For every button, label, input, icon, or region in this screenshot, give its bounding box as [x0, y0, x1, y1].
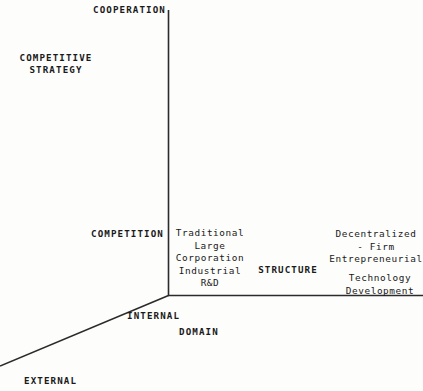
axis-title-domain: DOMAIN [179, 326, 229, 338]
item-decentralized-firm-entrepreneurial: Decentralized - Firm Entrepreneurial [329, 228, 423, 266]
axis-endpoint-label-internal: INTERNAL [127, 310, 187, 322]
axis-endpoint-label-cooperation: COOPERATION [70, 4, 166, 16]
item-technology-development: Technology Development [341, 272, 419, 297]
item-traditional-large-corporation-industrial-rd: Traditional Large Corporation Industrial… [170, 227, 250, 290]
axis-title-structure: STRUCTURE [258, 264, 318, 276]
axis-title-line-2: STRATEGY [29, 64, 82, 75]
diagram-canvas: COOPERATION COMPETITIVESTRATEGY COMPETIT… [0, 0, 423, 391]
diagonal-axis-line [0, 296, 169, 367]
axis-endpoint-label-external: EXTERNAL [24, 375, 84, 387]
axis-endpoint-label-competition: COMPETITION [88, 228, 164, 240]
axis-title-line-1: COMPETITIVE [20, 52, 93, 63]
axis-title-competitive-strategy: COMPETITIVESTRATEGY [8, 52, 104, 76]
